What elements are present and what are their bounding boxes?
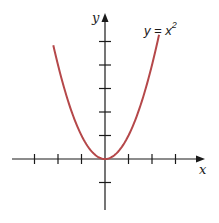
equation-exponent: 2 bbox=[171, 20, 177, 30]
y-axis-arrow-icon bbox=[102, 13, 109, 22]
y-axis-label: y bbox=[91, 10, 100, 25]
parabola-plot: y x y = x2 bbox=[0, 0, 219, 223]
equation-base: y = x bbox=[143, 23, 172, 38]
parabola-curve bbox=[53, 35, 159, 159]
x-axis-label: x bbox=[199, 162, 207, 177]
axes bbox=[12, 13, 205, 210]
equation-label: y = x2 bbox=[143, 20, 177, 38]
